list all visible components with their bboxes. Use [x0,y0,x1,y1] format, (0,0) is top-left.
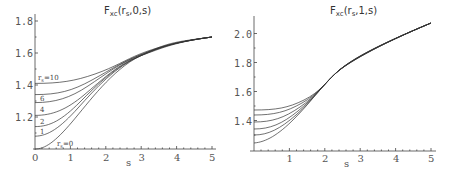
left-ytick-1-4: 1.4 [15,80,33,91]
curve-rs-10 [35,37,212,83]
right-xtick-2: 2 [322,153,328,164]
right-ytick-1-8: 1.8 [234,58,252,69]
left-ytick-1-8: 1.8 [15,16,33,27]
curve-r-rs-4 [254,23,431,122]
label-rs-1: 1 [40,128,44,136]
right-chart: Fxc(rs,1,s) 2.0 1.8 1.6 1.4 [226,0,451,172]
left-curves [35,37,212,149]
left-chart-title: Fxc(rs,0,s) [104,5,151,18]
left-chart-panel: Fxc(rs,0,s) 1.8 1.6 1.4 1.2 [0,0,225,172]
right-ytick-1-6: 1.6 [234,87,252,98]
curve-rs-1 [35,37,212,136]
left-xtick-4: 4 [174,152,180,163]
left-ytick-1-6: 1.6 [15,48,33,59]
curve-r-rs-10 [254,23,431,110]
right-xtick-4: 4 [393,153,399,164]
right-chart-title: Fxc(rs,1,s) [330,5,377,18]
label-rs-0: rs=0 [57,140,73,149]
curve-rs-4 [35,37,212,115]
right-curves [254,23,431,143]
left-chart: Fxc(rs,0,s) 1.8 1.6 1.4 1.2 [0,0,225,172]
left-ytick-1-2: 1.2 [15,112,33,123]
left-xtick-3: 3 [139,152,145,163]
left-xtick-2: 2 [103,152,109,163]
right-x-axis-label: s [344,158,349,169]
curve-r-rs-1 [254,23,431,135]
label-rs-2: 2 [40,118,44,126]
right-x-ticks [261,148,431,151]
right-ytick-1-4: 1.4 [234,116,252,127]
left-xtick-0: 0 [32,152,38,163]
label-rs-10: rs=10 [38,74,59,83]
right-chart-panel: Fxc(rs,1,s) 2.0 1.8 1.6 1.4 [226,0,451,172]
left-xtick-1: 1 [68,152,74,163]
left-xtick-5: 5 [209,152,215,163]
curve-rs-8 [35,37,212,95]
right-xtick-5: 5 [428,153,434,164]
curve-r-rs-6 [254,23,431,115]
right-y-ticks [254,34,257,136]
curve-rs-6 [35,37,212,103]
curve-rs-0 [35,37,212,149]
right-xtick-3: 3 [358,153,364,164]
label-rs-4: 4 [40,106,45,114]
left-x-axis-label: s [126,157,131,168]
curve-r-rs-0 [254,23,431,143]
right-ytick-2-0: 2.0 [234,29,252,40]
label-rs-6: 6 [40,95,45,103]
curve-r-rs-2 [254,23,431,129]
right-xtick-1: 1 [287,153,293,164]
